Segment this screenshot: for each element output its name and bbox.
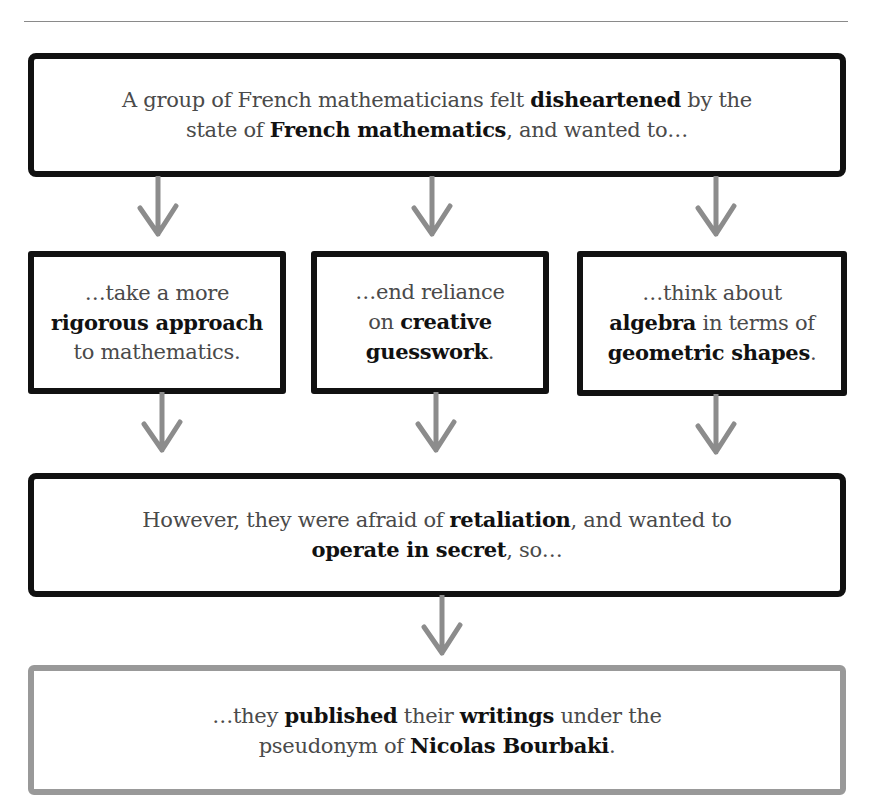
keyword-guesswork: guesswork	[366, 339, 488, 364]
outcome-text: …they published their writings under the…	[212, 701, 661, 761]
secrecy-text: However, they were afraid of retaliation…	[142, 505, 731, 565]
outcome-box: …they published their writings under the…	[28, 665, 846, 795]
keyword-french-mathematics: French mathematics	[270, 117, 506, 142]
keyword-algebra: algebra	[609, 310, 696, 335]
keyword-operate-in-secret: operate in secret	[312, 537, 507, 562]
goal-box-geometry: …think about algebra in terms of geometr…	[577, 251, 847, 396]
secrecy-box: However, they were afraid of retaliation…	[28, 473, 846, 597]
keyword-disheartened: disheartened	[530, 87, 681, 112]
keyword-creative: creative	[400, 309, 492, 334]
keyword-rigorous-approach: rigorous approach	[51, 310, 263, 335]
top-divider	[24, 21, 848, 22]
arrow-down-icon	[412, 392, 458, 458]
arrow-down-icon	[692, 176, 738, 242]
keyword-geometric-shapes: geometric shapes	[608, 340, 810, 365]
goal-text-geometry: …think about algebra in terms of geometr…	[608, 279, 817, 368]
goal-box-guesswork: …end reliance on creative guesswork.	[311, 251, 549, 394]
arrow-down-icon	[408, 176, 454, 242]
intro-box: A group of French mathematicians felt di…	[28, 53, 846, 177]
keyword-published: published	[284, 703, 397, 728]
keyword-writings: writings	[460, 703, 554, 728]
goal-text-guesswork: …end reliance on creative guesswork.	[355, 278, 504, 367]
arrow-down-icon	[134, 176, 180, 242]
keyword-nicolas-bourbaki: Nicolas Bourbaki	[410, 733, 609, 758]
keyword-retaliation: retaliation	[450, 507, 571, 532]
goal-text-rigorous: …take a more rigorous approach to mathem…	[51, 279, 263, 367]
arrow-down-icon	[692, 394, 738, 460]
arrow-down-icon	[418, 595, 464, 661]
arrow-down-icon	[138, 392, 184, 458]
intro-text: A group of French mathematicians felt di…	[122, 85, 752, 145]
goal-box-rigorous: …take a more rigorous approach to mathem…	[28, 251, 286, 394]
